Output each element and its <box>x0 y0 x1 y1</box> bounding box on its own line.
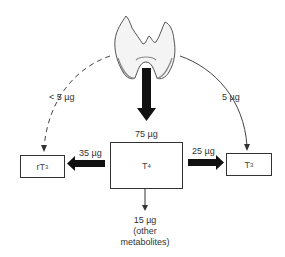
node-rt3-sub: 3 <box>45 164 48 170</box>
node-t4-sub: 4 <box>148 163 151 169</box>
thick-left-arrow <box>67 156 105 171</box>
dashed-curve-arrow <box>44 56 110 148</box>
node-t4: T4 <box>110 142 183 189</box>
arrowhead-icon <box>244 144 250 151</box>
thin-down-arrow <box>142 189 148 211</box>
thick-down-arrow <box>137 68 156 121</box>
label-t4-to-other-line2: metabolites) <box>117 238 173 247</box>
node-rt3-label: rT <box>37 162 46 172</box>
label-thyroid-to-rt3: < 5 µg <box>49 93 74 102</box>
node-t3: T3 <box>226 153 272 176</box>
label-t4-to-other-line1: (other <box>117 227 173 236</box>
thick-right-arrow <box>188 155 224 170</box>
label-t4-input: 75 µg <box>135 130 158 139</box>
arrowhead-icon <box>41 145 47 152</box>
label-t4-to-rt3: 35 µg <box>79 149 102 158</box>
label-t4-to-other-amount: 15 µg <box>117 216 173 225</box>
label-t4-to-t3: 25 µg <box>192 147 215 156</box>
node-t3-sub: 3 <box>250 162 253 168</box>
label-thyroid-to-t3: 5 µg <box>222 93 240 102</box>
node-rt3: rT3 <box>20 155 65 178</box>
